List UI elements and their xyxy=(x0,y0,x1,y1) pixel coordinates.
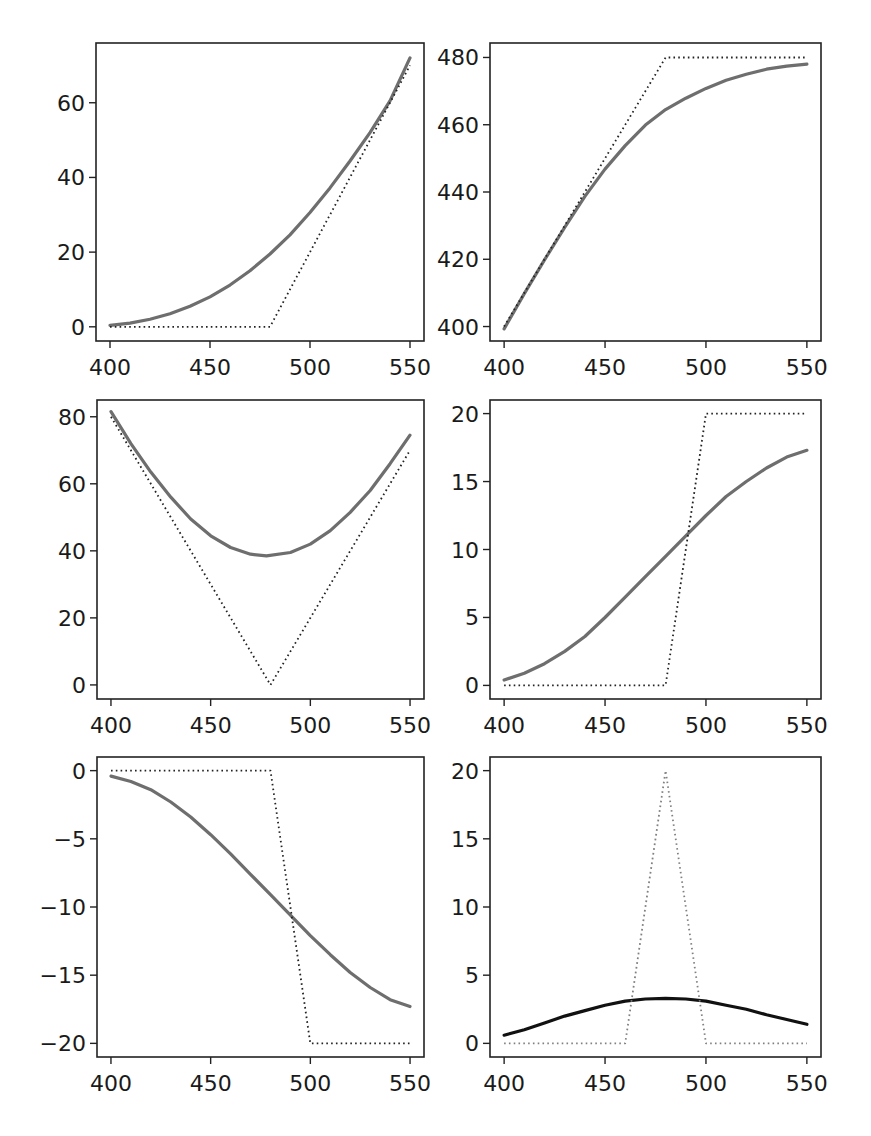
x-tick-label: 500 xyxy=(289,355,331,380)
x-tick-label: 400 xyxy=(483,1071,525,1096)
y-tick-label: −5 xyxy=(54,827,86,852)
plot-area xyxy=(111,771,410,1044)
plot-area xyxy=(504,414,807,686)
x-tick-label: 550 xyxy=(786,1071,828,1096)
y-tick-label: 0 xyxy=(465,1031,479,1056)
y-tick-label: 10 xyxy=(451,895,479,920)
y-tick-label: −10 xyxy=(40,895,86,920)
y-tick-label: 0 xyxy=(71,315,85,340)
y-tick-label: 5 xyxy=(465,605,479,630)
axes-frame xyxy=(96,43,424,341)
y-tick-label: 60 xyxy=(58,472,86,497)
x-tick-label: 500 xyxy=(289,1071,331,1096)
solid-series-line xyxy=(504,64,807,329)
y-tick-label: −15 xyxy=(40,963,86,988)
x-tick-label: 400 xyxy=(483,355,525,380)
y-tick-label: 15 xyxy=(451,827,479,852)
panel-6: 40045050055005101520 xyxy=(451,757,828,1096)
plot-area xyxy=(504,58,807,329)
y-tick-label: 20 xyxy=(57,240,85,265)
dotted-series-line xyxy=(111,771,410,1044)
y-tick-label: 440 xyxy=(437,180,479,205)
dotted-series-line xyxy=(111,417,410,685)
y-tick-label: 80 xyxy=(58,405,86,430)
y-tick-label: −20 xyxy=(40,1031,86,1056)
x-tick-label: 450 xyxy=(190,713,232,738)
x-tick-label: 400 xyxy=(90,713,132,738)
y-tick-label: 40 xyxy=(57,165,85,190)
dotted-series-line xyxy=(504,771,807,1044)
x-tick-label: 400 xyxy=(90,1071,132,1096)
y-tick-label: 460 xyxy=(437,113,479,138)
y-tick-label: 480 xyxy=(437,45,479,70)
y-tick-label: 0 xyxy=(465,673,479,698)
y-tick-label: 20 xyxy=(451,759,479,784)
y-tick-label: 20 xyxy=(451,402,479,427)
axes-frame xyxy=(97,757,424,1057)
y-tick-label: 0 xyxy=(72,759,86,784)
axes-frame xyxy=(97,400,424,699)
y-tick-label: 20 xyxy=(58,606,86,631)
panel-1: 4004505005500204060 xyxy=(57,43,431,380)
panel-3: 400450500550020406080 xyxy=(58,400,431,738)
x-tick-label: 500 xyxy=(289,713,331,738)
solid-series-line xyxy=(504,450,807,680)
y-tick-label: 15 xyxy=(451,470,479,495)
x-tick-label: 500 xyxy=(685,713,727,738)
x-tick-label: 400 xyxy=(89,355,131,380)
x-tick-label: 550 xyxy=(389,713,431,738)
axes-frame xyxy=(490,757,821,1057)
y-tick-label: 40 xyxy=(58,539,86,564)
y-tick-label: 60 xyxy=(57,91,85,116)
panel-4: 40045050055005101520 xyxy=(451,400,828,738)
axes-frame xyxy=(490,43,821,341)
dotted-series-line xyxy=(504,414,807,686)
y-tick-label: 0 xyxy=(72,673,86,698)
solid-series-line xyxy=(111,412,410,556)
x-tick-label: 450 xyxy=(584,1071,626,1096)
y-tick-label: 10 xyxy=(451,538,479,563)
solid-series-line xyxy=(110,58,410,325)
plot-area xyxy=(111,412,410,685)
dotted-series-line xyxy=(504,58,807,327)
solid-series-line xyxy=(504,998,807,1035)
x-tick-label: 550 xyxy=(389,1071,431,1096)
y-tick-label: 400 xyxy=(437,315,479,340)
x-tick-label: 450 xyxy=(189,355,231,380)
dotted-series-line xyxy=(110,65,410,326)
x-tick-label: 450 xyxy=(584,355,626,380)
figure-grid: 4004505005500204060 40045050055040042044… xyxy=(0,0,871,1136)
x-tick-label: 450 xyxy=(190,1071,232,1096)
plot-area xyxy=(504,771,807,1044)
x-tick-label: 450 xyxy=(584,713,626,738)
x-tick-label: 500 xyxy=(685,355,727,380)
x-tick-label: 550 xyxy=(786,713,828,738)
x-tick-label: 550 xyxy=(786,355,828,380)
panel-2: 400450500550400420440460480 xyxy=(437,43,828,380)
plot-area xyxy=(110,58,410,327)
y-tick-label: 5 xyxy=(465,963,479,988)
y-tick-label: 420 xyxy=(437,247,479,272)
axes-frame xyxy=(490,400,821,699)
x-tick-label: 500 xyxy=(685,1071,727,1096)
x-tick-label: 550 xyxy=(389,355,431,380)
solid-series-line xyxy=(111,776,410,1006)
x-tick-label: 400 xyxy=(483,713,525,738)
panel-5: 4004505005500−5−10−15−20 xyxy=(40,757,431,1096)
